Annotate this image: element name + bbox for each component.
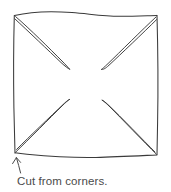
pointer-arrow: [13, 158, 21, 173]
diagram-canvas: Cut from corners.: [0, 0, 171, 192]
cut-top-left-line-b: [15, 19, 70, 69]
cut-top-right-line-a: [102, 17, 156, 69]
cut-top-left: [15, 17, 70, 70]
pointer-arrow-head: [13, 158, 21, 164]
caption-label: Cut from corners.: [17, 174, 108, 188]
square-edge-left: [14, 15, 15, 153]
square-sheet-outline: [14, 12, 158, 158]
cut-bottom-right: [102, 100, 156, 154]
square-edge-bottom: [15, 153, 157, 158]
cut-from-corners-sketch: [0, 0, 171, 192]
square-edge-right: [157, 16, 158, 155]
cut-bottom-left: [16, 99, 70, 152]
square-edge-top: [15, 12, 157, 16]
cut-top-left-line-a: [16, 17, 70, 70]
cut-bottom-left-line-a: [16, 99, 70, 152]
cut-top-right: [102, 17, 157, 69]
cut-bottom-right-line-a: [102, 100, 156, 154]
